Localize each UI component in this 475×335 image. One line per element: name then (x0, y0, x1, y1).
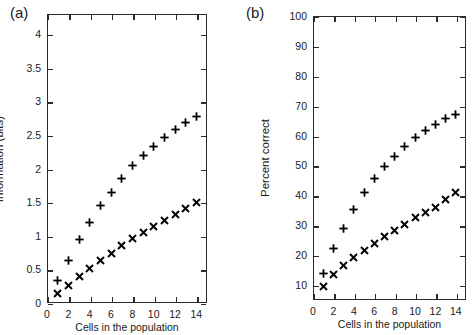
panel-a-ytick-right (201, 270, 206, 271)
panel-a-ytick-left (48, 203, 53, 204)
panel-a-ytick-label: 2.5 (13, 129, 41, 141)
panel-b-ytick-label: 50 (279, 159, 307, 171)
panel-b-xtick-label: 4 (351, 305, 357, 317)
panel-b-ytick-right (460, 196, 465, 197)
panel-a-xtick-top (112, 15, 113, 20)
panel-b-ytick-left (314, 166, 319, 167)
panel-a-xtick-bottom (155, 297, 156, 302)
panel-b-xtick-top (355, 17, 356, 22)
panel-b-plot-frame (313, 16, 466, 300)
panel-a-ytick-label: 0 (13, 297, 41, 309)
panel-b-xtick-label: 2 (330, 305, 336, 317)
figure-canvas: (a) Cells in the population Information … (0, 0, 475, 335)
panel-a-xtick-top (48, 15, 49, 20)
panel-b-ytick-right (460, 226, 465, 227)
panel-a-xtick-top (91, 15, 92, 20)
panel-b-ytick-label: 90 (279, 40, 307, 52)
panel-b-ytick-left (314, 137, 319, 138)
panel-b-ytick-right (460, 47, 465, 48)
panel-a-ytick-right (201, 136, 206, 137)
panel-b-ytick-left (314, 196, 319, 197)
panel-b-xtick-label: 10 (409, 305, 421, 317)
panel-b-xtick-bottom (375, 294, 376, 299)
panel-b-xtick-top (334, 17, 335, 22)
panel-a-xtick-top (69, 15, 70, 20)
panel-a-xtick-bottom (197, 297, 198, 302)
panel-b-ytick-left (314, 107, 319, 108)
panel-a-xtick-bottom (48, 297, 49, 302)
panel-a-ytick-left (48, 270, 53, 271)
panel-a-xtick-label: 12 (169, 308, 181, 320)
panel-a-xtick-bottom (112, 297, 113, 302)
panel-a-ytick-label: 3 (13, 95, 41, 107)
panel-a-ytick-label: 3.5 (13, 62, 41, 74)
panel-b-ytick-left (314, 286, 319, 287)
panel-b-ytick-label: 80 (279, 70, 307, 82)
panel-b-xtick-top (436, 17, 437, 22)
panel-b-xtick-bottom (334, 294, 335, 299)
panel-a-ytick-label: 2 (13, 163, 41, 175)
panel-a-xtick-top (197, 15, 198, 20)
panel-b-ytick-label: 100 (279, 10, 307, 22)
panel-b-ytick-right (460, 77, 465, 78)
panel-a-ytick-left (48, 102, 53, 103)
panel-b-ytick-left (314, 226, 319, 227)
panel-a-ytick-label: 1 (13, 230, 41, 242)
panel-a-xtick-bottom (176, 297, 177, 302)
panel-b-ytick-right (460, 137, 465, 138)
panel-b-xtick-top (416, 17, 417, 22)
panel-b-xtick-label: 14 (450, 305, 462, 317)
panel-b-xtick-label: 0 (310, 305, 316, 317)
panel-b-ytick-left (314, 47, 319, 48)
panel-a-ytick-left (48, 35, 53, 36)
panel-b-xtick-bottom (457, 294, 458, 299)
panel-a-ytick-label: 1.5 (13, 196, 41, 208)
panel-b-ytick-right (460, 256, 465, 257)
panel-b-xtick-label: 6 (371, 305, 377, 317)
panel-a-ytick-left (48, 237, 53, 238)
panel-b-ytick-right (460, 166, 465, 167)
panel-b-xtick-top (396, 17, 397, 22)
panel-a-ytick-right (201, 203, 206, 204)
panel-b-ytick-left (314, 256, 319, 257)
panel-a-ytick-right (201, 304, 206, 305)
panel-b: (b) Cells in the population Percent corr… (238, 0, 475, 335)
panel-a-ytick-left (48, 304, 53, 305)
panel-b-xtick-bottom (436, 294, 437, 299)
panel-a-xtick-label: 6 (108, 308, 114, 320)
panel-b-y-axis-title: Percent correct (259, 119, 271, 197)
panel-b-x-axis-title: Cells in the population (338, 318, 441, 330)
panel-a-xtick-label: 0 (44, 308, 50, 320)
panel-a-xtick-bottom (69, 297, 70, 302)
panel-a-x-axis-title: Cells in the population (75, 321, 178, 333)
panel-b-ytick-right (460, 107, 465, 108)
panel-b-xtick-label: 12 (430, 305, 442, 317)
panel-b-xtick-bottom (314, 294, 315, 299)
panel-b-xtick-label: 8 (392, 305, 398, 317)
panel-b-label: (b) (246, 4, 264, 21)
panel-a-ytick-right (201, 102, 206, 103)
panel-b-xtick-bottom (355, 294, 356, 299)
panel-b-ytick-label: 40 (279, 189, 307, 201)
panel-a-ytick-label: 4 (13, 28, 41, 40)
panel-a-xtick-bottom (91, 297, 92, 302)
panel-a-xtick-label: 4 (87, 308, 93, 320)
panel-a-plot-frame (47, 14, 207, 303)
panel-b-ytick-label: 10 (279, 279, 307, 291)
panel-b-ytick-right (460, 286, 465, 287)
panel-a: (a) Cells in the population Information … (0, 0, 238, 335)
panel-a-y-axis-title: Information (bits) (0, 115, 5, 201)
panel-b-ytick-right (460, 17, 465, 18)
panel-b-ytick-label: 20 (279, 249, 307, 261)
panel-a-ytick-left (48, 170, 53, 171)
panel-a-ytick-left (48, 69, 53, 70)
panel-b-xtick-bottom (416, 294, 417, 299)
panel-a-xtick-bottom (133, 297, 134, 302)
panel-b-xtick-top (375, 17, 376, 22)
panel-a-xtick-label: 8 (129, 308, 135, 320)
panel-a-ytick-right (201, 237, 206, 238)
panel-b-xtick-bottom (396, 294, 397, 299)
panel-a-xtick-label: 2 (65, 308, 71, 320)
panel-a-label: (a) (10, 4, 28, 21)
panel-b-xtick-top (314, 17, 315, 22)
